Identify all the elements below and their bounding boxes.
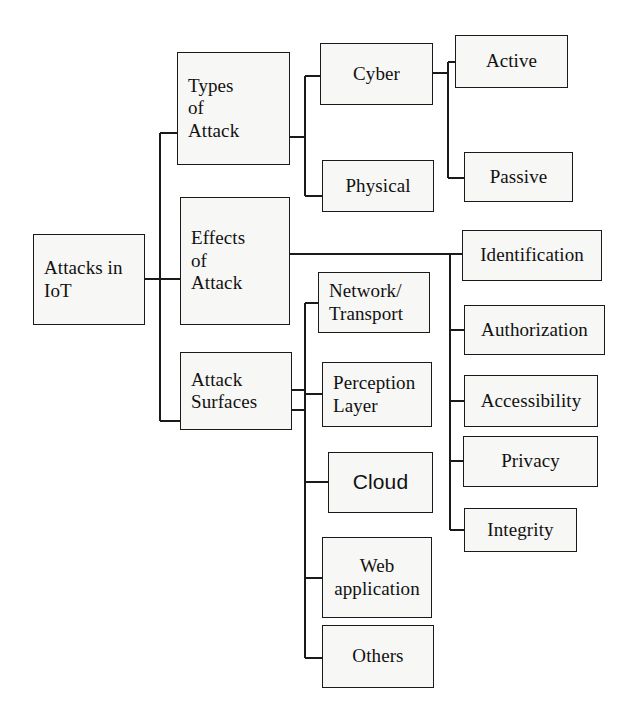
node-effects-of-attack[interactable]: Effects of Attack	[180, 197, 290, 325]
node-authorization[interactable]: Authorization	[464, 305, 605, 355]
node-accessibility[interactable]: Accessibility	[464, 375, 598, 427]
diagram-canvas: Attacks in IoT Types of Attack Effects o…	[0, 0, 631, 724]
node-cloud[interactable]: Cloud	[328, 452, 433, 513]
node-others[interactable]: Others	[322, 625, 434, 688]
node-identification[interactable]: Identification	[462, 230, 602, 281]
node-web-application[interactable]: Web application	[322, 537, 432, 618]
node-privacy[interactable]: Privacy	[463, 436, 598, 487]
node-attacks-in-iot[interactable]: Attacks in IoT	[33, 234, 145, 325]
node-passive[interactable]: Passive	[464, 152, 573, 202]
node-active[interactable]: Active	[455, 35, 568, 88]
node-cyber[interactable]: Cyber	[320, 43, 433, 105]
node-perception-layer[interactable]: Perception Layer	[322, 362, 432, 427]
node-network-transport[interactable]: Network/ Transport	[318, 272, 430, 333]
node-physical[interactable]: Physical	[322, 160, 434, 212]
node-attack-surfaces[interactable]: Attack Surfaces	[180, 352, 292, 430]
connector-lines	[0, 0, 631, 724]
node-integrity[interactable]: Integrity	[464, 508, 577, 552]
node-types-of-attack[interactable]: Types of Attack	[177, 52, 290, 165]
